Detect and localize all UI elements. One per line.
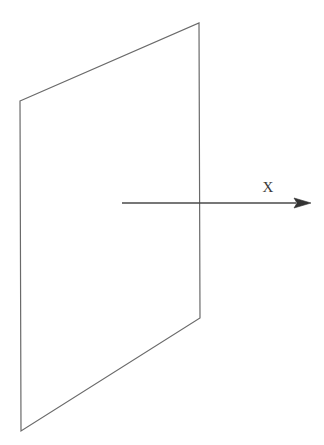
figure-background [0,0,324,445]
figure-canvas: X [0,0,324,445]
diagram-svg: X [0,0,324,445]
x-axis-label: X [263,179,274,195]
